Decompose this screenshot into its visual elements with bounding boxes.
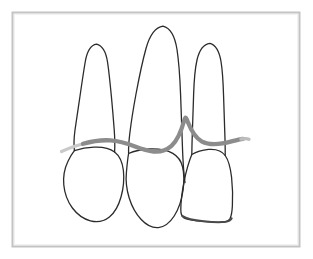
illustration-canvas: Dental illustration of three teeth with …: [0, 0, 313, 259]
dental-illustration: [0, 0, 313, 259]
gum-line-right-tail: [241, 139, 249, 140]
photo-border: [13, 13, 300, 247]
